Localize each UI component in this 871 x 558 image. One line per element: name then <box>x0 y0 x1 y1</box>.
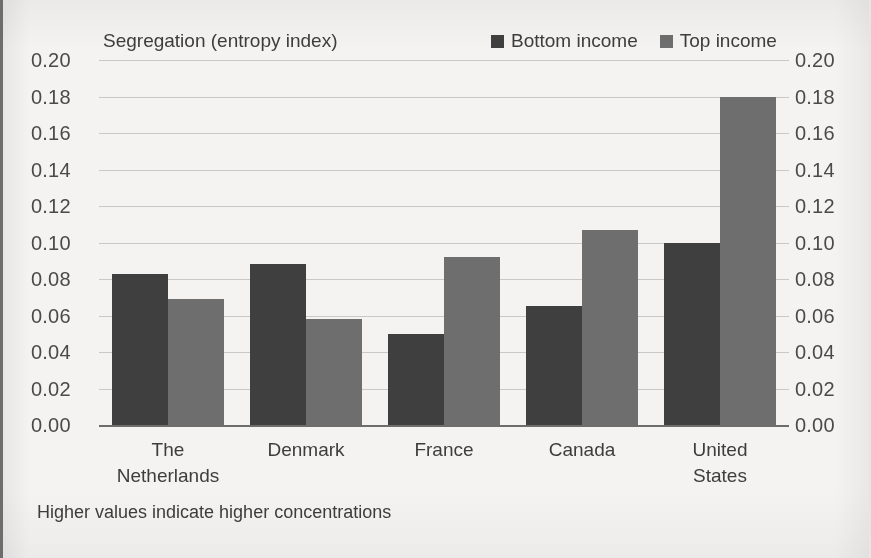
y-tick-label: 0.14 <box>31 160 91 180</box>
y-tick-label: 0.10 <box>31 233 91 253</box>
y-tick-label: 0.16 <box>795 123 855 143</box>
y-tick-label: 0.18 <box>31 87 91 107</box>
legend-swatch-icon <box>491 35 504 48</box>
bar-top-income[interactable] <box>306 319 362 425</box>
plot-area <box>99 60 789 425</box>
y-tick-label: 0.08 <box>795 269 855 289</box>
y-tick-label: 0.06 <box>795 306 855 326</box>
bar-bottom-income[interactable] <box>664 243 720 426</box>
x-axis-label: Denmark <box>267 437 344 463</box>
y-tick-label: 0.04 <box>795 342 855 362</box>
bar-top-income[interactable] <box>444 257 500 425</box>
bar-group <box>388 60 500 425</box>
bar-top-income[interactable] <box>168 299 224 425</box>
chart-legend: Bottom incomeTop income <box>491 30 777 52</box>
bar-group <box>112 60 224 425</box>
y-tick-label: 0.14 <box>795 160 855 180</box>
bar-bottom-income[interactable] <box>526 306 582 425</box>
chart-title: Segregation (entropy index) <box>103 30 337 52</box>
y-tick-label: 0.20 <box>31 50 91 70</box>
y-tick-label: 0.10 <box>795 233 855 253</box>
bar-top-income[interactable] <box>720 97 776 426</box>
legend-label: Bottom income <box>511 30 638 52</box>
legend-swatch-icon <box>660 35 673 48</box>
bar-bottom-income[interactable] <box>112 274 168 425</box>
y-axis-left: 0.200.180.160.140.120.100.080.060.040.02… <box>31 0 91 558</box>
y-tick-label: 0.06 <box>31 306 91 326</box>
bar-group <box>526 60 638 425</box>
y-axis-right: 0.200.180.160.140.120.100.080.060.040.02… <box>795 0 855 558</box>
bar-bottom-income[interactable] <box>388 334 444 425</box>
bar-top-income[interactable] <box>582 230 638 425</box>
legend-item[interactable]: Bottom income <box>491 30 638 52</box>
y-tick-label: 0.02 <box>31 379 91 399</box>
y-tick-label: 0.12 <box>31 196 91 216</box>
axis-baseline <box>99 425 789 427</box>
bar-group <box>664 60 776 425</box>
x-axis-label: United States <box>686 437 755 489</box>
y-tick-label: 0.20 <box>795 50 855 70</box>
chart-figure: Segregation (entropy index) Bottom incom… <box>0 0 871 558</box>
x-axis-categories: The NetherlandsDenmarkFranceCanadaUnited… <box>99 437 789 495</box>
x-axis-label: Canada <box>549 437 616 463</box>
y-tick-label: 0.04 <box>31 342 91 362</box>
y-tick-label: 0.12 <box>795 196 855 216</box>
y-tick-label: 0.16 <box>31 123 91 143</box>
legend-label: Top income <box>680 30 777 52</box>
x-axis-label: The Netherlands <box>117 437 219 489</box>
y-tick-label: 0.00 <box>795 415 855 435</box>
x-axis-label: France <box>414 437 473 463</box>
y-tick-label: 0.02 <box>795 379 855 399</box>
bar-group <box>250 60 362 425</box>
y-tick-label: 0.18 <box>795 87 855 107</box>
y-tick-label: 0.00 <box>31 415 91 435</box>
legend-item[interactable]: Top income <box>660 30 777 52</box>
y-tick-label: 0.08 <box>31 269 91 289</box>
bar-bottom-income[interactable] <box>250 264 306 425</box>
chart-footnote: Higher values indicate higher concentrat… <box>37 501 391 523</box>
